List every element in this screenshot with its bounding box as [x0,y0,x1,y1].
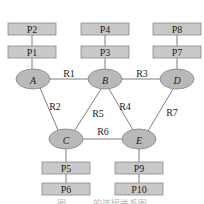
figure-caption: 图 … … 的连接关系图 [57,198,147,204]
peripheral-p1: P1 [8,46,56,58]
edge-label-r2: R2 [49,101,61,112]
edge-label-r3: R3 [136,68,148,79]
node-b: B [88,69,122,89]
node-d: D [160,69,194,89]
svg-text:B: B [102,75,108,86]
svg-text:C: C [63,135,70,146]
peripheral-p9: P9 [115,162,163,174]
edge-label-r7: R7 [166,107,178,118]
peripheral-p7: P7 [153,46,201,58]
svg-text:A: A [29,75,37,86]
node-a: A [16,69,50,89]
svg-text:P5: P5 [61,163,72,174]
svg-text:P3: P3 [100,47,111,58]
edge-label-r6: R6 [97,126,109,137]
edge-label-r4: R4 [119,101,131,112]
svg-text:P2: P2 [27,24,38,35]
svg-text:D: D [172,75,181,86]
svg-text:P7: P7 [172,47,183,58]
peripheral-p5: P5 [42,162,90,174]
peripheral-p3: P3 [81,46,129,58]
svg-text:P1: P1 [27,47,38,58]
node-c: C [49,129,83,149]
svg-text:E: E [135,135,142,146]
svg-text:P9: P9 [134,163,145,174]
node-e: E [122,129,156,149]
peripheral-p10: P10 [115,183,163,195]
svg-text:P10: P10 [131,184,147,195]
edge-label-r5: R5 [92,108,104,119]
peripheral-p6: P6 [42,183,90,195]
peripheral-p2: P2 [8,23,56,35]
peripheral-p8: P8 [153,23,201,35]
svg-text:P8: P8 [172,24,183,35]
edge-label-r1: R1 [63,68,75,79]
svg-text:P6: P6 [61,184,72,195]
diagram-canvas: P2 P1 P4 P3 P8 P7 P5 P6 [0,0,204,204]
peripheral-p4: P4 [81,23,129,35]
network-diagram: P2 P1 P4 P3 P8 P7 P5 P6 [0,0,204,204]
svg-text:P4: P4 [100,24,111,35]
